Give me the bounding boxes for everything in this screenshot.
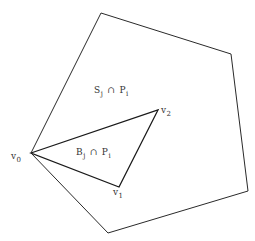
label-b-subscript: j — [83, 152, 86, 160]
label-s-intersect-p: Sj∩Pi — [94, 86, 129, 95]
label-v1: v1 — [113, 188, 124, 197]
label-v0: v0 — [11, 152, 22, 161]
label-p-subscript: i — [126, 90, 129, 98]
label-v2: v2 — [161, 106, 172, 115]
label-v2-subscript: 2 — [167, 110, 172, 118]
label-v1-subscript: 1 — [119, 192, 124, 200]
intersection-symbol: ∩ — [90, 147, 98, 157]
polygon-diagram — [0, 0, 255, 241]
label-v0-subscript: 0 — [17, 156, 22, 164]
outer-polygon-p-i — [31, 13, 248, 233]
label-s-subscript: j — [101, 90, 104, 98]
label-s-base: S — [94, 85, 101, 95]
label-b-intersect-p: Bj∩Pi — [76, 148, 111, 157]
label-p-subscript: i — [108, 152, 111, 160]
intersection-symbol: ∩ — [107, 85, 115, 95]
